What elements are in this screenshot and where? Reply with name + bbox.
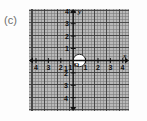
x-tick-label-neg3: 3	[46, 64, 50, 71]
x-tick-label-neg4: 4	[34, 64, 38, 71]
y-axis-arrow-negative	[70, 107, 76, 111]
y-tick-label-neg3: 3	[64, 82, 68, 89]
y-tick-label-2: 2	[65, 33, 69, 40]
x-tick-label-neg1: 1	[68, 64, 72, 71]
y-tick-label-neg2: 2	[64, 70, 68, 77]
y-tick-label-4: 4	[65, 9, 69, 15]
x-tick-label-1: 1	[84, 64, 88, 71]
y-tick-label-3: 3	[65, 20, 69, 27]
x-tick-label-4: 4	[121, 64, 125, 71]
x-tick-label-neg2: 2	[59, 64, 63, 71]
y-tick-label-neg4: 4	[64, 95, 68, 102]
origin-label: O	[74, 62, 79, 69]
x-axis-arrow-negative	[29, 57, 33, 63]
x-axis-label: x	[123, 53, 127, 60]
y-axis-label: y	[78, 9, 81, 16]
panel-label: (c)	[4, 14, 17, 26]
x-tick-label-2: 2	[96, 64, 100, 71]
y-tick-label-1: 1	[65, 45, 69, 52]
figure-panel: (c)	[0, 0, 147, 121]
coordinate-plane: 4 3 2 1 1 2 3 4 4 3 2 1 1 2 3 4 O y x	[29, 9, 129, 111]
axes-and-curve	[29, 9, 129, 111]
x-tick-label-3: 3	[108, 64, 112, 71]
